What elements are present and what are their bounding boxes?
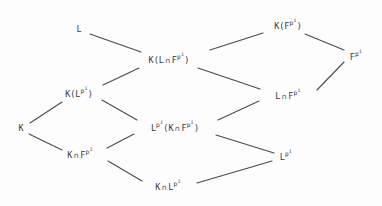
lattice-node: L (76, 25, 81, 34)
intersection-symbol: ∩ (160, 183, 168, 192)
lattice-diagram: LK(Fpi)K(L∩Fpi)FpiK(Lpi)L∩FpiKLpi(K∩Fpi)… (0, 0, 382, 206)
exponent-inner: i (359, 48, 362, 54)
lattice-node: L∩Fpi (275, 90, 300, 100)
node-text: (K (163, 123, 173, 133)
exponent-inner: i (89, 146, 92, 152)
node-text: ) (88, 89, 93, 99)
lattice-node: K(Fpi) (274, 20, 302, 30)
exponent: pi (173, 180, 180, 187)
exponent-inner: i (289, 148, 292, 154)
lattice-edge (30, 102, 62, 123)
lattice-edge (103, 68, 139, 85)
lattice-node: Fpi (350, 51, 362, 61)
intersection-symbol: ∩ (72, 151, 80, 160)
lattice-edge (102, 100, 137, 120)
node-text: ) (184, 55, 189, 65)
lattice-edge (216, 135, 274, 153)
edge-layer (0, 0, 382, 206)
intersection-symbol: ∩ (280, 92, 288, 101)
exponent: pi (80, 87, 87, 94)
exponent: pi (285, 150, 292, 157)
lattice-edge (218, 101, 259, 120)
lattice-node: K∩Lpi (155, 181, 180, 191)
exponent-inner: i (297, 87, 300, 93)
lattice-edge (90, 34, 141, 52)
node-text: K (18, 123, 23, 133)
node-text: F (182, 123, 187, 133)
lattice-edge (108, 161, 142, 181)
intersection-symbol: ∩ (174, 124, 182, 133)
exponent: pi (177, 53, 184, 60)
node-text: K(L (65, 89, 80, 99)
exponent: pi (293, 89, 300, 96)
node-text: L (76, 24, 81, 34)
exponent: pi (355, 50, 362, 57)
lattice-node: Lpi(K∩Fpi) (151, 122, 199, 132)
lattice-node: K(L∩Fpi) (149, 54, 190, 64)
exponent: pi (187, 121, 194, 128)
node-text: ) (297, 21, 302, 31)
lattice-edge (305, 34, 344, 50)
lattice-edge (107, 134, 134, 148)
node-text: ) (194, 123, 199, 133)
node-text: K(F (274, 21, 289, 31)
node-text: K(L (149, 55, 164, 65)
lattice-edge (29, 134, 62, 150)
exponent-inner: i (177, 178, 180, 184)
lattice-node: K (18, 124, 23, 133)
lattice-edge (197, 161, 272, 183)
lattice-edge (317, 62, 344, 90)
exponent: pi (85, 148, 92, 155)
lattice-node: Lpi (280, 151, 292, 161)
exponent: pi (289, 19, 296, 26)
lattice-edge (198, 68, 260, 89)
lattice-node: K∩Fpi (67, 149, 92, 159)
lattice-node: K(Lpi) (65, 88, 93, 98)
lattice-edge (210, 33, 263, 50)
